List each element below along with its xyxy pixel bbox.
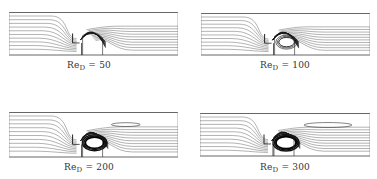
- panel-re-100: [201, 13, 370, 57]
- panel-label-re-300: ReD = 300: [260, 162, 310, 174]
- panel-label-re-100: ReD = 100: [260, 60, 310, 72]
- panel-re-300: [200, 113, 370, 158]
- panel-re-200: [9, 112, 178, 159]
- streamline-plot: [9, 12, 178, 57]
- streamline-plot: [200, 113, 370, 158]
- streamline-plot: [9, 112, 178, 159]
- panel-re-50: [9, 12, 178, 57]
- panel-label-re-200: ReD = 200: [64, 162, 114, 174]
- panel-label-re-50: ReD = 50: [67, 60, 111, 72]
- streamline-plot: [201, 13, 370, 57]
